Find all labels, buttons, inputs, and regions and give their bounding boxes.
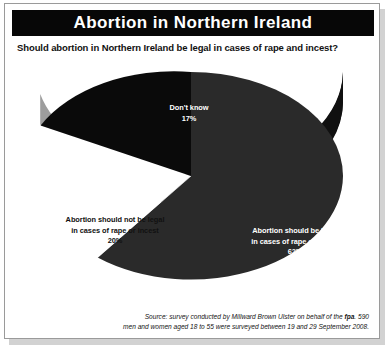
- source-line2: men and women aged 18 to 55 were surveye…: [123, 323, 369, 330]
- source-note: Source: survey conducted by Millward Bro…: [119, 312, 369, 332]
- chart-area: Don't know 17% Abortion should not be le…: [5, 56, 379, 306]
- source-line1-suffix: . 590: [354, 313, 369, 320]
- page-title: Abortion in Northern Ireland: [74, 13, 313, 33]
- slice-label-dont-know-value: 17%: [182, 114, 197, 123]
- source-org: fpa: [344, 313, 354, 320]
- slice-label-legal: Abortion should be legal in cases of rap…: [227, 226, 363, 258]
- chart-card: Abortion in Northern Ireland Should abor…: [4, 3, 380, 339]
- source-line1-prefix: Source: survey conducted by Millward Bro…: [145, 313, 345, 320]
- slice-label-legal-value: 62%: [288, 247, 303, 256]
- slice-label-dont-know-text: Don't know: [169, 103, 208, 112]
- slice-label-not-legal: Abortion should not be legal in cases of…: [47, 215, 183, 247]
- title-bar: Abortion in Northern Ireland: [12, 10, 374, 36]
- pie-chart: Don't know 17% Abortion should not be le…: [31, 58, 351, 294]
- pie-chart-graphic: [31, 58, 351, 294]
- slice-label-legal-line2: in cases of rape or incest: [251, 237, 338, 246]
- slice-label-not-legal-value: 20%: [108, 236, 123, 245]
- slice-label-dont-know: Don't know 17%: [143, 103, 235, 124]
- slice-label-not-legal-line2: in cases of rape or incest: [71, 226, 158, 235]
- chart-question: Should abortion in Northern Ireland be l…: [17, 42, 373, 53]
- slice-label-legal-line1: Abortion should be legal: [252, 226, 337, 235]
- slice-label-not-legal-line1: Abortion should not be legal: [66, 215, 165, 224]
